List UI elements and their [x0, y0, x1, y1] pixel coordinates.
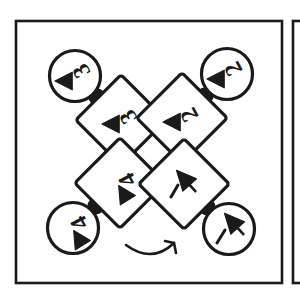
- adjacent-panel-edge: [293, 21, 300, 283]
- rotation-arrow-curve: [126, 243, 174, 254]
- rotation-direction-arrow: [126, 241, 176, 254]
- rotor-unit-1[interactable]: [139, 139, 255, 255]
- rotor-unit-4[interactable]: 44: [48, 138, 166, 254]
- diagram-svg: 332244: [0, 0, 300, 288]
- figure-canvas: 332244: [0, 0, 300, 288]
- rotor-unit-2[interactable]: 22: [137, 49, 253, 164]
